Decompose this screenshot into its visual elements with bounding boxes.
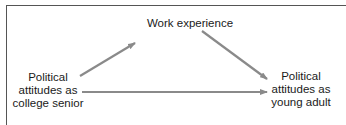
node-label: Work experience xyxy=(120,17,260,30)
node-label: attitudes as xyxy=(8,84,88,97)
node-work-experience: Work experience xyxy=(120,17,260,30)
node-attitudes-young-adult: Political attitudes as young adult xyxy=(262,70,340,109)
node-label: college senior xyxy=(8,97,88,110)
arrow-work-to-adult xyxy=(202,31,267,79)
node-label: Political xyxy=(8,71,88,84)
arrow-senior-to-work xyxy=(80,43,135,76)
node-label: Political xyxy=(262,70,340,83)
node-label: young adult xyxy=(262,96,340,109)
node-label: attitudes as xyxy=(262,83,340,96)
node-attitudes-college-senior: Political attitudes as college senior xyxy=(8,71,88,110)
